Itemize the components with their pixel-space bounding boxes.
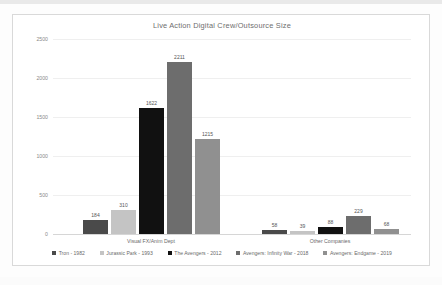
bar-series-layer: 184 310 1622 2211 1215 Visual FX/Anim De… [53,39,411,234]
plot-area: 2500 2000 1500 1000 500 0 184 [53,39,411,234]
chart-legend: Tron - 1982 Jurassic Park - 1993 The Ave… [13,250,431,256]
y-axis-tick-0: 0 [45,231,48,237]
bar-value-label: 88 [328,219,334,225]
bar-jurassic-park-1993-other[interactable]: 39 [290,231,315,234]
bar-endgame-2019-other[interactable]: 68 [374,229,399,234]
legend-label: Avengers: Endgame - 2019 [330,250,392,256]
scan-band-top [0,0,442,4]
bar-value-label: 39 [300,223,306,229]
bar-value-label: 184 [91,212,99,218]
bar-jurassic-park-1993-visualfx[interactable]: 310 [111,210,136,234]
bar-value-label: 68 [384,221,390,227]
y-axis-tick-500: 500 [39,192,48,198]
bar-the-avengers-2012-other[interactable]: 88 [318,227,343,234]
legend-label: Avengers: Infinity War - 2018 [243,250,308,256]
bar-value-label: 1622 [146,100,157,106]
screenshot-page: Live Action Digital Crew/Outsource Size … [0,0,442,285]
legend-label: Tron - 1982 [59,250,85,256]
y-axis-tick-1000: 1000 [36,153,48,159]
legend-swatch-icon [52,251,56,255]
legend-item-jurassic-park-1993[interactable]: Jurassic Park - 1993 [100,250,153,256]
legend-swatch-icon [168,251,172,255]
bar-infinity-war-2018-other[interactable]: 229 [346,216,371,234]
bar-value-label: 1215 [202,131,213,137]
bar-tron-1982-other[interactable]: 58 [262,230,287,235]
bar-value-label: 58 [272,222,278,228]
chart-container: Live Action Digital Crew/Outsource Size … [12,14,430,266]
bar-tron-1982-visualfx[interactable]: 184 [83,220,108,234]
y-axis-tick-2500: 2500 [36,36,48,42]
legend-swatch-icon [323,251,327,255]
bar-value-label: 2211 [174,54,185,60]
x-axis-line: 0 [53,234,411,235]
y-axis-tick-2000: 2000 [36,75,48,81]
legend-item-infinity-war-2018[interactable]: Avengers: Infinity War - 2018 [236,250,308,256]
x-axis-category-visual-fx-anim-dept: Visual FX/Anim Dept [127,238,175,244]
legend-item-endgame-2019[interactable]: Avengers: Endgame - 2019 [323,250,391,256]
legend-label: The Avengers - 2012 [174,250,221,256]
bar-infinity-war-2018-visualfx[interactable]: 2211 [167,62,192,235]
legend-item-tron-1982[interactable]: Tron - 1982 [52,250,85,256]
bar-the-avengers-2012-visualfx[interactable]: 1622 [139,108,164,235]
legend-item-the-avengers-2012[interactable]: The Avengers - 2012 [168,250,222,256]
x-axis-category-other-companies: Other Companies [310,238,351,244]
legend-label: Jurassic Park - 1993 [106,250,152,256]
chart-title: Live Action Digital Crew/Outsource Size [13,21,431,30]
legend-swatch-icon [100,251,104,255]
legend-swatch-icon [236,251,240,255]
bar-value-label: 310 [119,202,127,208]
bar-value-label: 229 [354,208,362,214]
bar-endgame-2019-visualfx[interactable]: 1215 [195,139,220,234]
y-axis-tick-1500: 1500 [36,114,48,120]
scan-band-bottom [0,277,442,285]
